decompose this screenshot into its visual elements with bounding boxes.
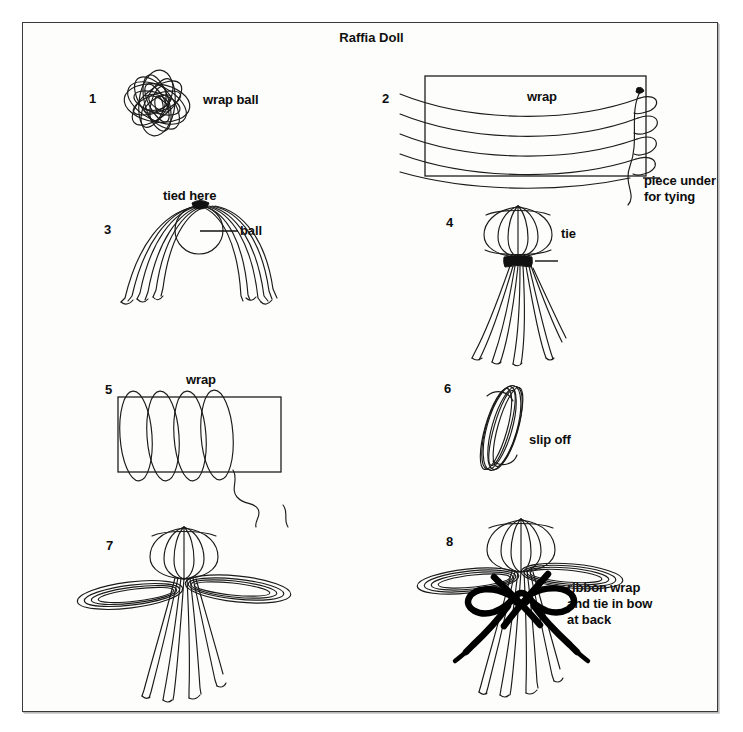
- doll-with-ribbon-bow-icon: [416, 519, 624, 697]
- page-root: Raffia Doll 1 2 3 4 5 6 7 8 wrap ball wr…: [0, 0, 743, 732]
- tilted-coil-loop-icon: [474, 382, 529, 475]
- doll-with-arms-icon: [76, 505, 292, 702]
- raffia-ball-coil-icon: [121, 68, 193, 137]
- doll-head-with-hanging-strands-icon: [472, 206, 566, 366]
- rectangle-with-vertical-wraps-icon: [117, 389, 281, 527]
- diagram-illustrations: [0, 0, 743, 732]
- arched-strands-over-ball-icon: [121, 201, 277, 305]
- rectangle-with-horizontal-wraps-icon: [400, 76, 660, 205]
